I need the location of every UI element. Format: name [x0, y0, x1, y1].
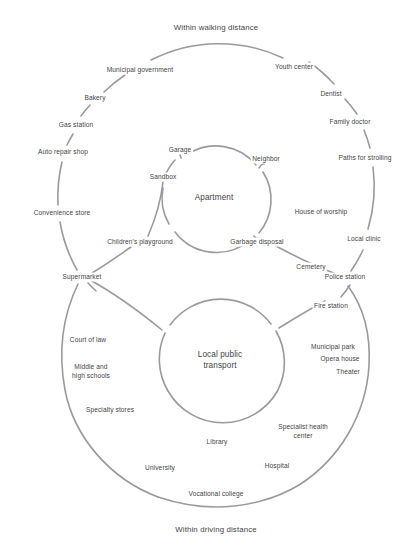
node-family-doctor[interactable]: Family doctor: [328, 118, 372, 127]
node-sandbox[interactable]: Sandbox: [148, 173, 178, 182]
node-convenience-store[interactable]: Convenience store: [32, 209, 92, 218]
transport-arc-top: [170, 299, 271, 325]
node-garbage-disposal[interactable]: Garbage disposal: [229, 238, 285, 247]
spoke-neighbor: [259, 164, 264, 168]
node-municipal-park[interactable]: Municipal park: [310, 343, 357, 352]
walking-distance-caption: Within walking distance: [174, 23, 259, 32]
node-gas-station[interactable]: Gas station: [57, 121, 94, 130]
driving-distance-ring: [62, 284, 369, 507]
node-house-of-worship[interactable]: House of worship: [293, 208, 349, 217]
node-cemetery[interactable]: Cemetery: [295, 263, 327, 272]
node-vocational-college[interactable]: Vocational college: [187, 490, 245, 499]
walking-ring-arc-bakery-gas: [81, 105, 90, 116]
node-dentist[interactable]: Dentist: [319, 90, 343, 99]
diagram-canvas: Within walking distance Within driving d…: [0, 0, 420, 549]
walking-ring-arc-clinic-police: [351, 250, 363, 271]
node-middle-and-high-schools[interactable]: Middle and high schools: [71, 363, 112, 381]
node-auto-repair-shop[interactable]: Auto repair shop: [37, 148, 90, 157]
walking-ring-arc-family-paths: [364, 130, 370, 148]
spoke-playground-to-supermarket: [92, 247, 131, 273]
core-label-local-public-transport: Local public transport: [198, 349, 242, 372]
node-garage[interactable]: Garage: [167, 146, 193, 155]
spoke-transport-to-supermarket: [90, 280, 162, 330]
spoke-garage: [180, 154, 181, 158]
node-court-of-law[interactable]: Court of law: [68, 336, 107, 345]
driving-distance-caption: Within driving distance: [175, 525, 256, 534]
node-neighbor[interactable]: Neighbor: [251, 155, 282, 164]
walking-ring-arc-top: [151, 44, 283, 60]
node-supermarket[interactable]: Supermarket: [61, 273, 103, 282]
node-fire-station[interactable]: Fire station: [313, 302, 350, 311]
walking-ring-arc-gas-auto: [67, 134, 73, 145]
apartment-arc-garage-neighbor: [188, 146, 256, 165]
apartment-arc-playground-sandbox: [162, 188, 169, 224]
walking-distance-ring: [58, 44, 374, 297]
node-municipal-government[interactable]: Municipal government: [105, 66, 175, 75]
driving-ring-arc-right: [299, 286, 369, 485]
walking-ring-arc-municipal-bakery: [104, 75, 125, 92]
spoke-sandbox-to-playground: [148, 182, 163, 236]
walking-ring-arc-auto-convenience: [58, 162, 62, 205]
node-hospital[interactable]: Hospital: [263, 462, 291, 471]
node-local-clinic[interactable]: Local clinic: [346, 235, 382, 244]
node-library[interactable]: Library: [205, 438, 229, 447]
node-specialty-stores[interactable]: Specialty stores: [84, 406, 135, 415]
walking-ring-arc-supermarket-bottom: [88, 283, 96, 291]
node-theater[interactable]: Theater: [335, 368, 361, 377]
node-university[interactable]: University: [144, 464, 177, 473]
transport-spokes: [90, 280, 325, 330]
walking-ring-arc-dentist-family: [345, 99, 357, 114]
apartment-arc-neighbor-garbage: [259, 172, 271, 233]
node-opera-house[interactable]: Opera house: [319, 355, 361, 364]
node-specialist-health-center[interactable]: Specialist health center: [277, 423, 330, 441]
node-paths-for-strolling[interactable]: Paths for strolling: [337, 154, 393, 163]
node-youth-center[interactable]: Youth center: [274, 63, 315, 72]
transport-arc-main: [159, 331, 284, 423]
node-childrens-playground[interactable]: Children's playground: [106, 238, 175, 247]
walking-ring-arc-convenience-supermarket: [60, 222, 77, 270]
core-label-apartment: Apartment: [195, 192, 234, 203]
walking-ring-arc-paths-clinic: [368, 167, 374, 229]
node-bakery[interactable]: Bakery: [83, 94, 107, 103]
node-police-station[interactable]: Police station: [323, 273, 367, 282]
